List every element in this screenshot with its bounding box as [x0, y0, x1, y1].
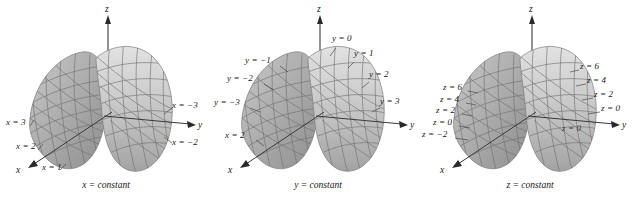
label-y-neg2: y = −2	[227, 74, 253, 83]
surface-left-lobe	[232, 48, 318, 170]
label-x-3: x = 3	[6, 118, 26, 127]
label-x-2: x = 2	[16, 142, 36, 151]
label-x-neg3: x = −3	[172, 101, 198, 110]
surface-right-lobe	[94, 40, 178, 174]
surface-right-lobe	[306, 40, 390, 174]
label-y-neg1: y = −1	[245, 56, 271, 65]
label-z-0-right: z = 0	[601, 104, 620, 113]
z-axis-label: z	[529, 5, 533, 15]
caption-x-constant: x = constant	[0, 180, 212, 190]
label-z-0-surface: z = 0	[562, 124, 581, 133]
label-z-neg2-left: z = −2	[422, 130, 447, 139]
x-axis-label: x	[440, 166, 444, 176]
label-z-6-left: z = 6	[443, 83, 462, 92]
caption-y-constant: y = constant	[212, 180, 424, 190]
label-y-neg3: y = −3	[214, 98, 240, 107]
label-x-neg2: x = −2	[172, 138, 198, 147]
y-axis-label: y	[410, 121, 414, 131]
label-y-3: y = 3	[380, 97, 400, 106]
label-x-1: x = 1	[42, 163, 62, 172]
label-z-4-left: z = 4	[440, 95, 459, 104]
surface-left-lobe	[20, 48, 106, 170]
saddle-surface-figure: z y x x = 3 x = 2 x = 1 x = −3 x = −2 x …	[0, 0, 636, 200]
label-z-0-left: z = 0	[433, 118, 452, 127]
y-axis-label: y	[622, 121, 626, 131]
panel-y-constant: z y x y = 0 y = 1 y = 2 y = 3 y = −1 y =…	[212, 0, 424, 200]
caption-z-constant: z = constant	[424, 180, 636, 190]
x-axis-label: x	[16, 166, 20, 176]
label-z-6-right: z = 6	[580, 62, 599, 71]
label-z-2-left: z = 2	[436, 106, 455, 115]
label-x-2: x = 2	[225, 131, 245, 140]
label-y-1: y = 1	[354, 49, 374, 58]
label-z-2-right: z = 2	[594, 90, 613, 99]
y-axis-label: y	[198, 121, 202, 131]
z-axis-label: z	[317, 5, 321, 15]
label-z-4-right: z = 4	[587, 76, 606, 85]
label-y-2: y = 2	[369, 70, 389, 79]
panel-z-constant: z y x z = 6 z = 4 z = 2 z = 0 z = 6 z = …	[424, 0, 636, 200]
x-axis-label: x	[228, 166, 232, 176]
z-axis-label: z	[105, 5, 109, 15]
label-y-0: y = 0	[332, 34, 352, 43]
panel-x-constant: z y x x = 3 x = 2 x = 1 x = −3 x = −2 x …	[0, 0, 212, 200]
surface-left-lobe	[444, 48, 530, 170]
